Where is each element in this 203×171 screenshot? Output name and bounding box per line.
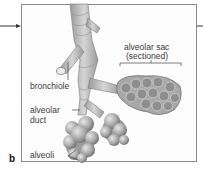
label-alveoli: alveoli (30, 150, 54, 160)
panel-letter: b (9, 153, 15, 164)
label-bronchiole: bronchiole (30, 81, 69, 91)
alveoli-cluster-right (100, 113, 129, 146)
label-alveolar-sac-sectioned: (sectioned) (126, 51, 168, 61)
incoming-arrow-icon (0, 24, 21, 28)
alveolar-sac-sectioned (117, 76, 181, 115)
label-alveolar-duct-line2: duct (30, 115, 46, 125)
label-alveolar-duct: alveolar (30, 105, 60, 115)
